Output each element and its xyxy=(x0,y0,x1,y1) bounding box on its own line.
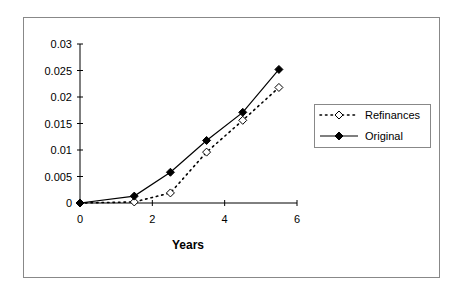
y-tick-label: 0.01 xyxy=(51,144,72,156)
x-tick-label: 0 xyxy=(77,213,83,225)
legend: RefinancesOriginal xyxy=(315,105,431,148)
y-tick-label: 0.015 xyxy=(44,118,72,130)
legend-label: Refinances xyxy=(365,109,421,121)
x-tick-label: 2 xyxy=(149,213,155,225)
y-tick-label: 0.02 xyxy=(51,91,72,103)
legend-label: Original xyxy=(365,130,403,142)
x-tick-label: 6 xyxy=(294,213,300,225)
y-tick-label: 0.025 xyxy=(44,65,72,77)
y-tick-label: 0.03 xyxy=(51,38,72,50)
x-tick-label: 4 xyxy=(222,213,228,225)
line-chart: 00.0050.010.0150.020.0250.03 0246 Years … xyxy=(0,0,459,296)
y-tick-label: 0 xyxy=(66,197,72,209)
y-tick-label: 0.005 xyxy=(44,171,72,183)
x-axis-title: Years xyxy=(172,238,204,252)
